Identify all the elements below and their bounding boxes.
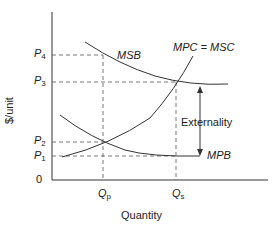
arrow-up-icon: [197, 86, 203, 93]
qp-label: Qp: [98, 188, 111, 201]
origin-label: 0: [36, 174, 42, 185]
qs-label: Qs: [172, 188, 185, 201]
externality-label: Externality: [181, 117, 232, 128]
p4-label: P4: [34, 48, 46, 61]
diagram-canvas: [0, 0, 280, 236]
mpb-label: MPB: [207, 150, 231, 161]
mpb-curve: [60, 115, 200, 156]
mpc-msc-label: MPC = MSC: [173, 42, 234, 53]
guide-lines: [52, 55, 176, 180]
msb-label: MSB: [117, 50, 141, 61]
p2-label: P2: [34, 135, 46, 148]
arrow-down-icon: [197, 149, 203, 156]
y-axis-label: $/unit: [4, 97, 15, 124]
p1-label: P1: [34, 150, 46, 163]
p3-label: P3: [34, 75, 46, 88]
x-axis-label: Quantity: [121, 210, 162, 221]
